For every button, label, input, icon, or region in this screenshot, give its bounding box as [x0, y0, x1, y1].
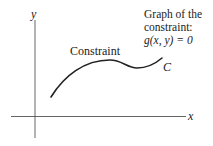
constraint-curve — [51, 58, 162, 97]
annotation-line-1: Graph of the — [144, 9, 202, 21]
constraint-equation: g(x, y) = 0 — [144, 35, 193, 47]
annotation-line-2: constraint: — [144, 22, 193, 34]
y-axis-label: y — [31, 8, 36, 20]
curve-label: Constraint — [70, 45, 120, 57]
curve-name: C — [163, 61, 171, 73]
x-axis-label: x — [188, 110, 193, 122]
